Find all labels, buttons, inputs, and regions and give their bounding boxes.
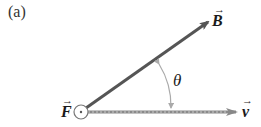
label-theta: θ: [173, 72, 181, 89]
label-F: → F: [61, 104, 72, 120]
label-B: → B: [212, 13, 223, 29]
vector-arrow-icon: →: [242, 95, 253, 106]
vector-arrow-icon: →: [62, 95, 73, 106]
vector-arrow-icon: →: [214, 4, 225, 15]
angle-arc: [159, 64, 171, 108]
magnetic-field-vector: [86, 22, 208, 108]
panel-label: (a): [8, 4, 26, 20]
diagram-canvas: (a) → B → v → F θ: [0, 0, 261, 127]
force-out-of-page-icon: [74, 105, 88, 119]
label-v: → v: [242, 104, 249, 120]
